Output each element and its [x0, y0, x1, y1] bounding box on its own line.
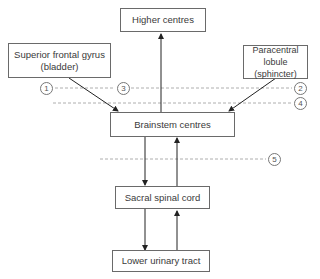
node-label: Higher centres [132, 14, 194, 26]
node-label: Brainstem centres [134, 119, 211, 131]
node-superior-frontal-gyrus: Superior frontal gyrus (bladder) [8, 43, 111, 78]
node-sacral-spinal-cord: Sacral spinal cord [115, 186, 210, 209]
marker-3: 3 [117, 82, 130, 95]
node-sublabel: (bladder) [40, 61, 78, 73]
marker-5: 5 [268, 153, 281, 166]
node-label: Paracentral lobule [244, 44, 307, 68]
marker-4: 4 [294, 97, 307, 110]
marker-1: 1 [40, 82, 53, 95]
node-brainstem-centres: Brainstem centres [110, 112, 235, 137]
node-label: Superior frontal gyrus [14, 49, 105, 61]
node-label: Lower urinary tract [122, 255, 201, 267]
node-lower-urinary-tract: Lower urinary tract [112, 250, 210, 272]
arrow-sfg-to-brainstem [69, 78, 118, 111]
node-higher-centres: Higher centres [120, 8, 206, 32]
marker-2: 2 [294, 82, 307, 95]
node-sublabel: (sphincter) [254, 68, 297, 80]
diagram-connectors [0, 0, 320, 279]
node-label: Sacral spinal cord [125, 192, 201, 204]
arrow-paracentral-to-brainstem [229, 78, 276, 111]
node-paracentral-lobule: Paracentral lobule (sphincter) [243, 45, 308, 79]
